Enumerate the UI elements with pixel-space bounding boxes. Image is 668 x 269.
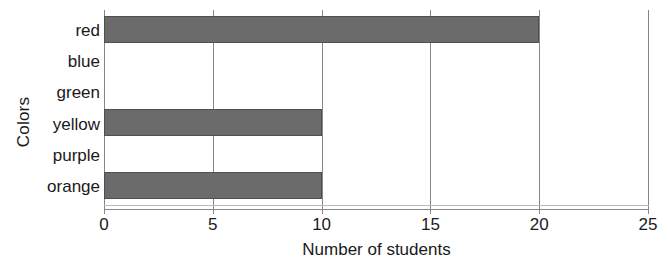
bar-row [104, 140, 648, 171]
bar-chart: Colors redbluegreenyellowpurpleorange 05… [0, 0, 668, 269]
x-axis-tick [104, 209, 105, 214]
bar [104, 109, 322, 136]
bar-row [104, 171, 648, 202]
x-axis-title: Number of students [104, 240, 649, 260]
x-axis-tick-label: 5 [193, 215, 233, 235]
category-label: yellow [22, 109, 100, 140]
category-label-list: redbluegreenyellowpurpleorange [22, 15, 100, 202]
plot-bottom-border [104, 205, 649, 206]
x-axis-tick [322, 209, 323, 214]
x-axis-tick [648, 209, 649, 214]
x-axis-tick-label: 10 [302, 215, 342, 235]
x-axis-tick-label: 20 [519, 215, 559, 235]
x-axis-tick [539, 209, 540, 214]
bar-row [104, 46, 648, 77]
category-label: red [22, 15, 100, 46]
category-label: green [22, 77, 100, 108]
x-axis-tick [430, 209, 431, 214]
x-axis-tick-label: 15 [410, 215, 450, 235]
bar [104, 16, 539, 43]
x-axis-line [104, 209, 649, 210]
bar-row [104, 77, 648, 108]
x-axis-tick [213, 209, 214, 214]
bar-row [104, 108, 648, 139]
bar-series [104, 15, 648, 202]
category-label: purple [22, 140, 100, 171]
bar-row [104, 15, 648, 46]
x-axis-tick-label: 0 [84, 215, 124, 235]
x-axis-tick-label: 25 [628, 215, 668, 235]
category-label: blue [22, 46, 100, 77]
category-label: orange [22, 171, 100, 202]
gridline [648, 10, 649, 209]
bar [104, 172, 322, 199]
